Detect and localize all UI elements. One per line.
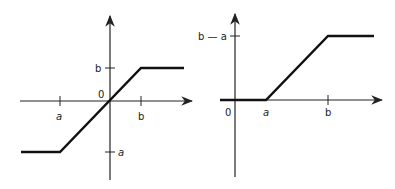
- left-y-b-label: b: [95, 63, 101, 74]
- right-origin-label: 0: [225, 107, 231, 118]
- right-x-a-label: a: [263, 107, 269, 118]
- left-x-a-label: a: [56, 111, 62, 122]
- diagram-canvas: 0 a b b a 0 a b b — a: [0, 0, 395, 189]
- left-curve: [21, 68, 184, 152]
- left-x-b-label: b: [138, 111, 144, 122]
- left-y-neg-a-label: a: [118, 147, 124, 158]
- left-origin-label: 0: [98, 89, 104, 100]
- right-y-top-label: b — a: [198, 31, 227, 42]
- right-curve: [220, 36, 374, 100]
- right-diagram: 0 a b b — a: [198, 14, 382, 177]
- left-diagram: 0 a b b a: [20, 16, 192, 180]
- right-x-b-label: b: [325, 107, 331, 118]
